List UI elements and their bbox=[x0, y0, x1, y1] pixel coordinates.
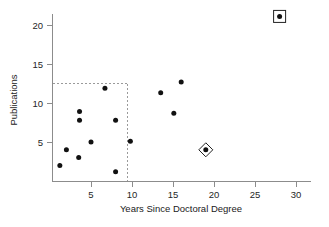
data-point bbox=[179, 79, 184, 84]
scatter-plot-figure: 5101520 51015202530 Years Since Doctoral… bbox=[0, 0, 329, 227]
x-tick-label: 10 bbox=[127, 189, 138, 200]
data-point bbox=[76, 155, 81, 160]
y-axis-ticks bbox=[47, 25, 53, 142]
axis-lines bbox=[53, 14, 312, 182]
x-tick-label: 5 bbox=[88, 189, 93, 200]
data-point bbox=[171, 111, 176, 116]
x-tick-label: 20 bbox=[209, 189, 220, 200]
data-point bbox=[113, 169, 118, 174]
x-axis-tick-labels: 51015202530 bbox=[88, 189, 301, 200]
data-point bbox=[102, 86, 107, 91]
y-axis-title: Publications bbox=[8, 74, 19, 125]
dashed-reference-box bbox=[53, 84, 128, 182]
data-point bbox=[89, 140, 94, 145]
data-point bbox=[128, 139, 133, 144]
y-tick-label: 5 bbox=[38, 137, 43, 148]
x-axis-title: Years Since Doctoral Degree bbox=[120, 203, 242, 214]
plot-canvas: 5101520 51015202530 Years Since Doctoral… bbox=[0, 0, 329, 227]
data-point bbox=[57, 163, 62, 168]
data-point bbox=[64, 147, 69, 152]
y-axis-tick-labels: 5101520 bbox=[32, 20, 43, 148]
y-tick-label: 10 bbox=[32, 98, 43, 109]
y-tick-label: 15 bbox=[32, 59, 43, 70]
x-tick-label: 15 bbox=[168, 189, 179, 200]
data-point bbox=[277, 14, 282, 19]
data-points-layer bbox=[57, 10, 285, 174]
x-tick-label: 30 bbox=[291, 189, 302, 200]
data-point bbox=[203, 147, 208, 152]
data-point bbox=[77, 118, 82, 123]
data-point bbox=[113, 118, 118, 123]
data-point bbox=[158, 90, 163, 95]
data-point bbox=[77, 109, 82, 114]
y-tick-label: 20 bbox=[32, 20, 43, 31]
x-axis-ticks bbox=[91, 182, 296, 188]
x-tick-label: 25 bbox=[250, 189, 261, 200]
